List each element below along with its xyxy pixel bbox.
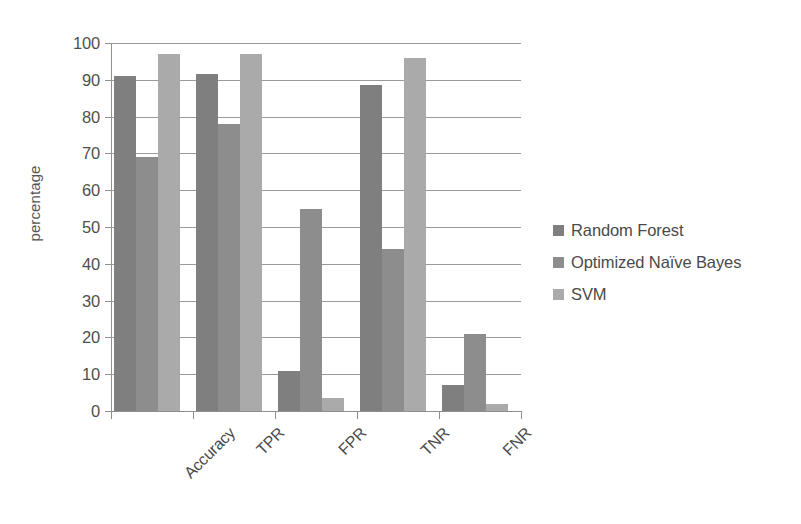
- y-tick-mark: [105, 117, 111, 118]
- y-tick-label: 80: [82, 107, 100, 126]
- y-tick-mark: [105, 227, 111, 228]
- y-tick-label: 50: [82, 218, 100, 237]
- bar-group-fpr: [278, 43, 344, 411]
- y-tick-mark: [105, 153, 111, 154]
- y-tick-label: 30: [82, 291, 100, 310]
- bar-chart-figure: percentage 0102030405060708090100 Accura…: [0, 0, 801, 524]
- y-tick-label: 90: [82, 70, 100, 89]
- bar: [322, 398, 344, 411]
- bar-group-tnr: [360, 43, 426, 411]
- gridline: [111, 411, 521, 412]
- bar: [158, 54, 180, 411]
- x-tick-label-fnr: FNR: [499, 424, 535, 460]
- y-tick-mark: [105, 301, 111, 302]
- y-tick-mark: [105, 264, 111, 265]
- y-tick-label: 40: [82, 254, 100, 273]
- x-tick-mark: [111, 411, 112, 419]
- y-tick-mark: [105, 190, 111, 191]
- y-tick-label: 100: [73, 34, 100, 53]
- y-tick-label: 0: [91, 402, 100, 421]
- legend-item[interactable]: Random Forest: [553, 214, 741, 246]
- x-tick-label-accuracy: Accuracy: [181, 424, 239, 482]
- bar: [442, 385, 464, 411]
- bar-group-accuracy: [114, 43, 180, 411]
- bar: [196, 74, 218, 411]
- y-tick-label: 70: [82, 144, 100, 163]
- y-tick-mark: [105, 374, 111, 375]
- x-tick-mark: [357, 411, 358, 419]
- y-axis-title: percentage: [26, 144, 43, 264]
- bar: [278, 371, 300, 411]
- plot-area: 0102030405060708090100: [111, 43, 521, 411]
- bar: [404, 58, 426, 411]
- bar: [486, 404, 508, 411]
- bar: [114, 76, 136, 411]
- bar: [464, 334, 486, 411]
- x-tick-label-tnr: TNR: [417, 424, 453, 460]
- legend-label: Optimized Naïve Bayes: [571, 253, 741, 272]
- bar: [218, 124, 240, 411]
- x-tick-mark: [275, 411, 276, 419]
- x-tick-label-tpr: TPR: [253, 424, 288, 459]
- y-tick-label: 60: [82, 181, 100, 200]
- y-tick-mark: [105, 337, 111, 338]
- y-tick-label: 10: [82, 365, 100, 384]
- legend-item[interactable]: Optimized Naïve Bayes: [553, 246, 741, 278]
- legend-swatch-icon: [553, 289, 564, 300]
- legend-label: SVM: [571, 285, 606, 304]
- x-tick-mark: [439, 411, 440, 419]
- y-tick-mark: [105, 80, 111, 81]
- legend-swatch-icon: [553, 225, 564, 236]
- x-tick-mark: [521, 411, 522, 419]
- chart-legend: Random ForestOptimized Naïve BayesSVM: [553, 214, 741, 310]
- x-tick-mark: [193, 411, 194, 419]
- y-tick-label: 20: [82, 328, 100, 347]
- legend-swatch-icon: [553, 257, 564, 268]
- bar-group-tpr: [196, 43, 262, 411]
- y-tick-mark: [105, 43, 111, 44]
- bar-group-fnr: [442, 43, 508, 411]
- legend-item[interactable]: SVM: [553, 278, 741, 310]
- bar: [382, 249, 404, 411]
- bar: [240, 54, 262, 411]
- bar: [360, 85, 382, 411]
- x-tick-label-fpr: FPR: [335, 424, 370, 459]
- bar: [136, 157, 158, 411]
- bar: [300, 209, 322, 411]
- legend-label: Random Forest: [571, 221, 683, 240]
